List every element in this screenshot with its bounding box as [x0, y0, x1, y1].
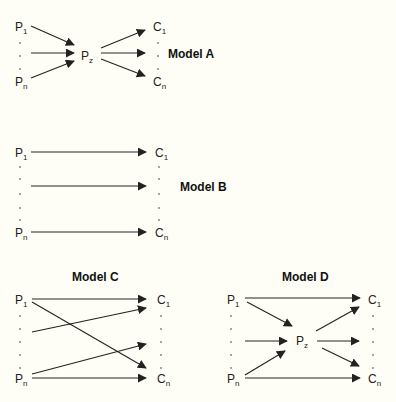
node-main-letter: C: [368, 293, 377, 307]
model-b-node-cn: Cn: [155, 226, 168, 242]
model-c-node-cn: Cn: [157, 372, 170, 388]
ellipsis-dot: [19, 328, 21, 330]
model-b-group: Model BP1PnC1Cn: [15, 146, 227, 242]
model-c-arrow: [32, 344, 146, 374]
node-main-letter: P: [15, 226, 23, 240]
ellipsis-dot: [230, 328, 232, 330]
model-d-node-p1: P1: [227, 293, 240, 309]
node-subscript: 1: [235, 300, 240, 309]
ellipsis-dot: [230, 354, 232, 356]
model-c-title: Model C: [72, 270, 119, 284]
model-a-node-c1: C1: [153, 20, 167, 36]
node-subscript: n: [23, 82, 27, 91]
ellipsis-dot: [160, 328, 162, 330]
node-subscript: 1: [166, 300, 171, 309]
model-c-node-p1: P1: [15, 293, 28, 309]
model-a-title: Model A: [168, 47, 215, 61]
ellipsis-dot: [230, 367, 232, 369]
model-b-node-pn: Pn: [15, 226, 27, 242]
ellipsis-dot: [19, 166, 21, 168]
ellipsis-dot: [372, 354, 374, 356]
model-d-arrow: [322, 348, 359, 366]
node-subscript: n: [162, 82, 166, 91]
model-a-group: Model AP1PnPzC1Cn: [15, 20, 215, 91]
model-a-node-pn: Pn: [15, 75, 27, 91]
node-main-letter: C: [155, 226, 164, 240]
node-subscript: n: [166, 379, 170, 388]
ellipsis-dot: [19, 219, 21, 221]
node-main-letter: C: [155, 146, 164, 160]
node-subscript: z: [304, 341, 308, 350]
ellipsis-dot: [19, 207, 21, 209]
model-d-node-c1: C1: [368, 293, 382, 309]
model-d-group: Model DP1PnPzC1Cn: [227, 270, 382, 388]
node-main-letter: C: [157, 293, 166, 307]
ellipsis-dot: [19, 354, 21, 356]
model-b-node-c1: C1: [155, 146, 169, 162]
ellipsis-dot: [19, 42, 21, 44]
model-d-node-pz: Pz: [296, 334, 308, 350]
node-subscript: 1: [377, 300, 382, 309]
ellipsis-dot: [230, 315, 232, 317]
ellipsis-dot: [19, 55, 21, 57]
ellipsis-dot: [230, 341, 232, 343]
ellipsis-dot: [19, 68, 21, 70]
model-d-node-pn: Pn: [227, 372, 239, 388]
node-main-letter: P: [15, 20, 23, 34]
ellipsis-dot: [372, 328, 374, 330]
ellipsis-dot: [372, 315, 374, 317]
model-d-arrow: [245, 351, 285, 375]
ellipsis-dot: [160, 354, 162, 356]
ellipsis-dot: [157, 42, 159, 44]
node-subscript: z: [89, 56, 93, 65]
model-d-arrow: [316, 307, 359, 331]
node-main-letter: P: [15, 146, 23, 160]
node-main-letter: P: [15, 372, 23, 386]
ellipsis-dot: [157, 55, 159, 57]
ellipsis-dot: [158, 207, 160, 209]
node-subscript: n: [377, 379, 381, 388]
node-subscript: n: [235, 379, 239, 388]
model-c-node-pn: Pn: [15, 372, 27, 388]
model-b-title: Model B: [180, 180, 227, 194]
node-main-letter: P: [227, 293, 235, 307]
node-subscript: n: [23, 379, 27, 388]
node-main-letter: P: [15, 75, 23, 89]
ellipsis-dot: [19, 178, 21, 180]
node-main-letter: C: [153, 20, 162, 34]
ellipsis-dot: [372, 367, 374, 369]
ellipsis-dot: [19, 341, 21, 343]
ellipsis-dot: [158, 193, 160, 195]
node-main-letter: P: [296, 334, 304, 348]
model-a-node-cn: Cn: [153, 75, 166, 91]
node-subscript: n: [23, 233, 27, 242]
model-d-arrow: [247, 302, 292, 326]
model-d-title: Model D: [282, 270, 329, 284]
ellipsis-dot: [158, 178, 160, 180]
node-main-letter: P: [227, 372, 235, 386]
model-c-group: Model CP1PnC1Cn: [15, 270, 171, 388]
node-subscript: 1: [164, 153, 169, 162]
node-subscript: 1: [23, 27, 28, 36]
node-main-letter: C: [153, 75, 162, 89]
ellipsis-dot: [157, 68, 159, 70]
node-subscript: 1: [23, 300, 28, 309]
model-a-arrow: [31, 26, 74, 45]
ellipsis-dot: [160, 341, 162, 343]
ellipsis-dot: [158, 219, 160, 221]
ellipsis-dot: [19, 193, 21, 195]
node-subscript: 1: [162, 27, 167, 36]
ellipsis-dot: [19, 367, 21, 369]
node-main-letter: C: [157, 372, 166, 386]
model-a-arrow: [101, 30, 145, 48]
ellipsis-dot: [160, 315, 162, 317]
model-c-node-c1: C1: [157, 293, 171, 309]
model-a-arrow: [101, 59, 145, 76]
ellipsis-dot: [19, 315, 21, 317]
model-a-node-p1: P1: [15, 20, 28, 36]
node-subscript: 1: [23, 153, 28, 162]
model-a-node-pz: Pz: [81, 49, 93, 65]
node-main-letter: P: [15, 293, 23, 307]
model-d-node-cn: Cn: [368, 372, 381, 388]
node-main-letter: P: [81, 49, 89, 63]
